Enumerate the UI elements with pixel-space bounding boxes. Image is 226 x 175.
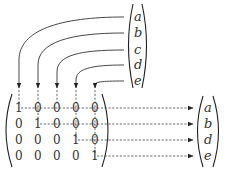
matrix-cell: 0 <box>34 149 42 163</box>
result-vector: a b d e <box>198 96 219 167</box>
curve-arrow-a <box>19 17 124 88</box>
result-vector-left-paren <box>198 96 204 167</box>
result-vector-entry-b: b <box>204 116 212 131</box>
result-vector-entry-e: e <box>204 148 212 163</box>
result-vector-entry-d: d <box>204 132 212 147</box>
top-vector-entry-c: c <box>134 42 142 57</box>
matrix-cell: 0 <box>72 149 80 163</box>
top-vector-right-paren <box>142 4 147 88</box>
selection-matrix: 1 0 0 0 0 0 1 0 0 0 0 0 0 1 0 0 0 0 0 1 <box>6 94 108 167</box>
top-vector-left-paren <box>129 4 134 88</box>
top-vector-entry-a: a <box>134 9 142 24</box>
matrix-cell: 0 <box>53 133 61 147</box>
top-vector-entry-b: b <box>134 25 142 40</box>
result-vector-right-paren <box>213 96 219 167</box>
top-vector: a b c d e <box>129 4 147 88</box>
matrix-cell: 0 <box>53 149 61 163</box>
matrix-cell: 0 <box>15 133 23 147</box>
matrix-selection-diagram: a b c d e 1 0 0 0 0 0 1 0 <box>0 0 226 175</box>
top-vector-entry-d: d <box>134 57 142 72</box>
matrix-left-paren <box>6 94 12 167</box>
curve-arrow-b <box>38 33 124 88</box>
matrix-row-4: 0 0 0 0 1 <box>15 149 99 163</box>
curve-arrow-d <box>76 65 124 88</box>
result-vector-entry-a: a <box>204 100 212 115</box>
top-vector-entry-e: e <box>134 73 142 88</box>
curve-arrow-c <box>57 50 124 88</box>
matrix-cell: 0 <box>15 149 23 163</box>
matrix-cell: 0 <box>34 133 42 147</box>
curve-arrow-e <box>95 81 124 88</box>
column-mapping-arrows <box>19 17 124 88</box>
matrix-cell: 0 <box>15 117 23 131</box>
